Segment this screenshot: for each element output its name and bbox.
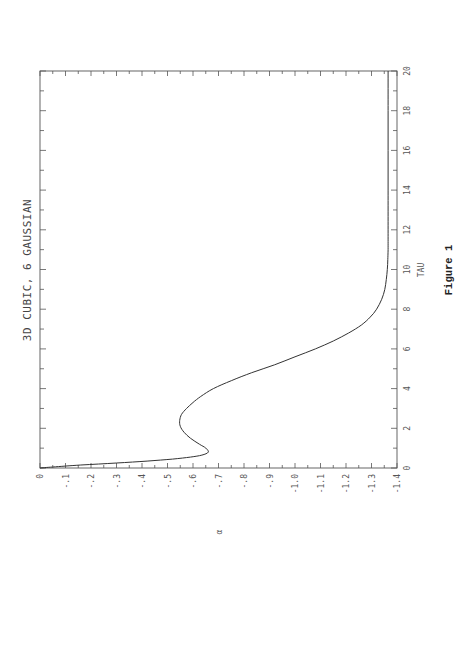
- y-tick-label: -.5: [164, 474, 173, 489]
- y-tick-label: 0: [36, 474, 45, 479]
- x-tick-label: 14: [403, 185, 412, 195]
- x-tick-label: 12: [403, 225, 412, 235]
- x-axis-label: TAU: [417, 263, 426, 278]
- x-tick-label: 4: [403, 386, 412, 391]
- y-tick-label: -.8: [240, 474, 249, 489]
- figure-caption: Figure 1: [443, 245, 455, 295]
- y-tick-label: -1.1: [317, 474, 326, 493]
- y-tick-label: -1.4: [393, 474, 402, 493]
- y-tick-label: -.4: [138, 474, 147, 489]
- chart-canvas: 0-.1-.2-.3-.4-.5-.6-.7-.8-.9-1.0-1.1-1.2…: [0, 0, 473, 648]
- x-tick-label: 16: [403, 145, 412, 155]
- y-tick-label: -1.2: [342, 474, 351, 493]
- x-tick-label: 10: [403, 265, 412, 275]
- x-tick-label: 20: [403, 66, 412, 76]
- y-axis-label: α: [215, 529, 224, 534]
- y-tick-label: -1.0: [291, 474, 300, 493]
- chart-title: 3D CUBIC, 6 GAUSSIAN: [21, 199, 34, 341]
- y-tick-label: -.3: [113, 474, 122, 489]
- x-tick-label: 18: [403, 106, 412, 116]
- y-tick-label: -.9: [266, 474, 275, 489]
- y-tick-label: -.1: [62, 474, 71, 489]
- y-tick-label: -1.3: [368, 474, 377, 493]
- x-tick-label: 8: [403, 307, 412, 312]
- x-tick-label: 2: [403, 426, 412, 431]
- x-tick-label: 0: [403, 465, 412, 470]
- y-tick-label: -.6: [189, 474, 198, 489]
- y-tick-label: -.7: [215, 474, 224, 489]
- tick-labels: 0-.1-.2-.3-.4-.5-.6-.7-.8-.9-1.0-1.1-1.2…: [36, 66, 412, 493]
- plot-frame: [40, 71, 397, 468]
- axis-ticks: [40, 71, 397, 468]
- x-tick-label: 6: [403, 346, 412, 351]
- data-line: [40, 71, 388, 468]
- y-tick-label: -.2: [87, 474, 96, 489]
